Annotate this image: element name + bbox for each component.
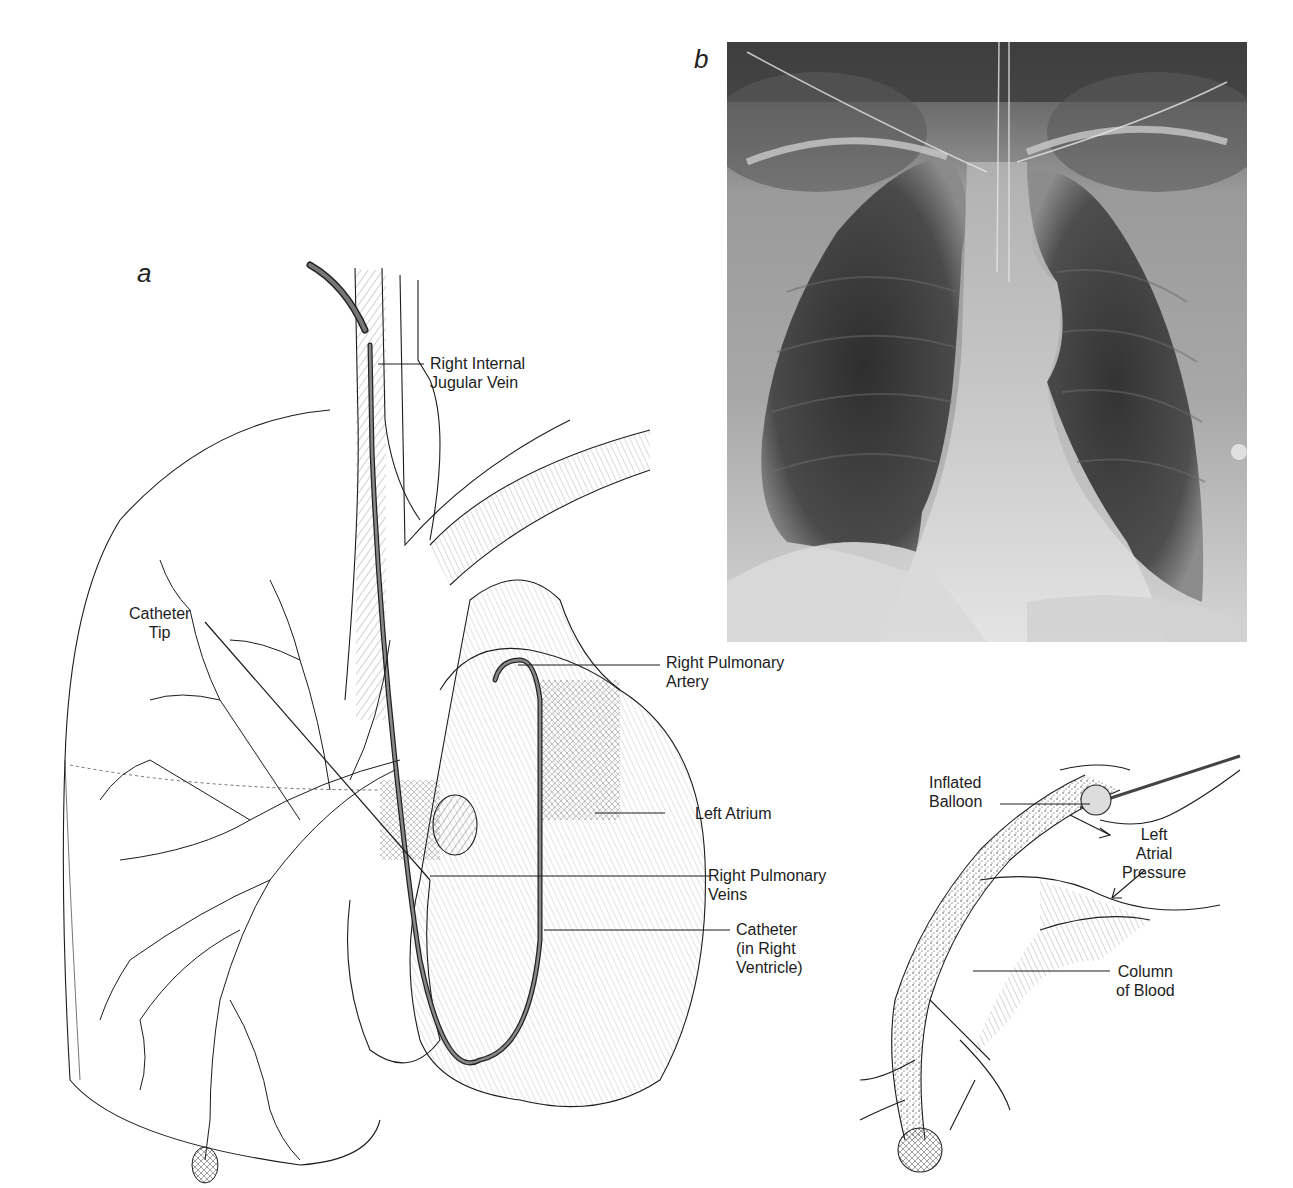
label-right-internal-jugular-vein: Right Internal Jugular Vein xyxy=(430,354,525,392)
label-catheter-in-right-ventricle: Catheter (in Right Ventricle) xyxy=(736,920,803,977)
panel-a-drawing xyxy=(63,268,705,1165)
label-left-atrium: Left Atrium xyxy=(695,804,771,823)
label-left-atrial-pressure: Left Atrial Pressure xyxy=(1122,825,1186,882)
pulmonary-tree xyxy=(100,560,400,1183)
label-inflated-balloon: Inflated Balloon xyxy=(929,773,982,811)
label-right-pulmonary-artery: Right Pulmonary Artery xyxy=(666,653,784,691)
label-column-of-blood: Column of Blood xyxy=(1116,962,1175,1000)
label-right-pulmonary-veins: Right Pulmonary Veins xyxy=(708,866,826,904)
inset-drawing xyxy=(860,756,1240,1172)
label-catheter-tip: Catheter Tip xyxy=(129,604,190,642)
heart-lung-illustration xyxy=(0,0,1293,1188)
